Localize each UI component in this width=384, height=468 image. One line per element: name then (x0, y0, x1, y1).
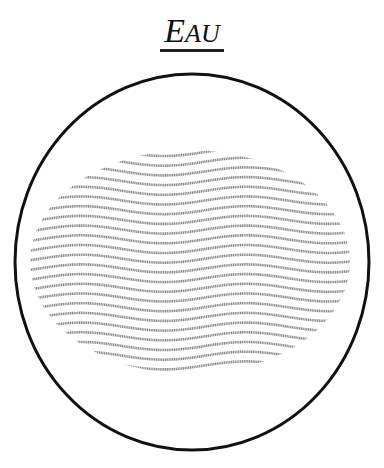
wave-line (20, 284, 368, 292)
wave-line (20, 352, 368, 360)
wave-line (20, 255, 368, 263)
wave-line (20, 274, 368, 282)
wave-line (20, 313, 368, 321)
wave-line (20, 148, 368, 156)
wave-line (20, 294, 368, 302)
wave-line (20, 226, 368, 234)
wave-line (20, 361, 368, 369)
wave-line (20, 323, 368, 331)
wave-line (20, 197, 368, 205)
wave-line (20, 177, 368, 185)
wave-line (20, 206, 368, 214)
wave-line (20, 158, 368, 166)
wave-line (20, 216, 368, 224)
wave-line (20, 342, 368, 350)
wave-line (20, 332, 368, 340)
wave-line (20, 264, 368, 272)
wave-line (20, 167, 368, 175)
wave-line (20, 245, 368, 253)
wave-line (20, 303, 368, 311)
wavy-lines (20, 148, 368, 369)
wave-line (20, 187, 368, 195)
water-illustration (0, 0, 384, 468)
wave-line (20, 235, 368, 243)
